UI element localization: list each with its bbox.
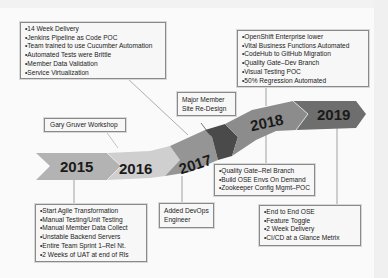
note-item: Start Agile Transformation [40, 207, 142, 216]
note-item: Jenkins Pipeline as Code POC [25, 34, 161, 43]
connector-line [105, 130, 118, 148]
note-item: Visual Testing POC [242, 68, 364, 77]
note-2017-top: 14 Week Delivery Jenkins Pipeline as Cod… [20, 22, 166, 79]
note-text: Major Member [182, 95, 231, 104]
note-text: Gary Gruver Workshop [50, 121, 118, 128]
note-item: Service Virtualization [25, 69, 161, 78]
note-text: Added DevOps [164, 206, 209, 215]
note-item: Feature Toggle [264, 217, 356, 226]
note-item: Manual Testing/Unit Testing [40, 216, 142, 225]
note-devops-engineer: Added DevOps Engineer [159, 203, 214, 228]
note-2018-bottom: Quality Gate–Rel Branch Build OSE Envs O… [214, 164, 315, 196]
note-item: 50% Regression Automated [242, 77, 364, 86]
note-text: Site Re-Design [182, 104, 231, 113]
note-item: CodeHub to GitHub Migration [242, 50, 364, 59]
note-item: 14 Week Delivery [25, 25, 161, 34]
note-item: Entire Team Sprint 1–Rel Nt. [40, 242, 142, 251]
note-item: CI/CD at a Glance Metrix [264, 234, 356, 243]
year-2015: 2015 [60, 158, 93, 175]
note-gary-gruver-workshop: Gary Gruver Workshop [44, 118, 126, 132]
note-item: Quality Gate–Dev Branch [242, 59, 364, 68]
note-major-redesign: Major Member Site Re-Design [177, 92, 236, 116]
note-item: OpenShift Enterprise lower [242, 33, 364, 42]
note-item: Manual Member Data Collect [40, 224, 142, 233]
year-2016: 2016 [119, 160, 152, 177]
note-2019-bottom: End to End OSE Feature Toggle 2 Week Del… [259, 205, 361, 246]
note-item: End to End OSE [264, 208, 356, 217]
note-item: Team trained to use Cucumber Automation [25, 42, 161, 51]
note-item: Quality Gate–Rel Branch [219, 167, 310, 176]
note-item: 2 Week Delivery [264, 225, 356, 234]
note-item: 2 Weeks of UAT at end of Rls [40, 251, 142, 260]
year-2019: 2019 [317, 106, 350, 123]
note-item: Unstable Backend Servers [40, 233, 142, 242]
note-2015-bottom: Start Agile Transformation Manual Testin… [35, 204, 147, 262]
note-item: Build OSE Envs On Demand [219, 176, 310, 185]
note-2018-top: OpenShift Enterprise lower Vital Busines… [237, 30, 369, 87]
note-item: Vital Business Functions Automated [242, 42, 364, 51]
note-item: Zookeeper Config Mgmt–POC [219, 184, 310, 193]
note-item: Automated Tests were Brittle [25, 51, 161, 60]
note-item: Member Data Validation [25, 60, 161, 69]
note-text: Engineer [164, 215, 209, 224]
